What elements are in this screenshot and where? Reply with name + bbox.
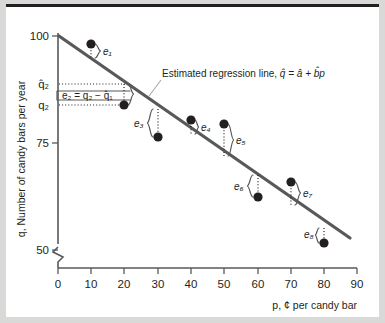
x-tick-label-20: 20 bbox=[118, 278, 131, 290]
regression-label-eq-rest: = â + b̂p bbox=[285, 66, 325, 79]
x-tick-label-80: 80 bbox=[318, 278, 331, 290]
residual-label-1: e₁ bbox=[103, 46, 112, 57]
residual-label-5: e₅ bbox=[236, 135, 246, 146]
residual-bracket-3 bbox=[147, 109, 153, 137]
data-point-2 bbox=[119, 100, 128, 109]
y-label-q-2: q₂ bbox=[38, 99, 49, 111]
regression-line-label: Estimated regression line, q̂ = â + b̂p bbox=[162, 66, 325, 79]
residual-bracket-8 bbox=[315, 228, 319, 243]
data-point-3 bbox=[153, 132, 162, 141]
scatter-plot-svg: q, Number of candy bars per year 100 75 … bbox=[6, 7, 379, 320]
residual-bracket-5 bbox=[228, 124, 234, 156]
residual-label-6: e₆ bbox=[234, 181, 244, 192]
x-axis-title: p, ¢ per candy bar bbox=[272, 299, 357, 311]
x-tick-label-0: 0 bbox=[55, 278, 61, 290]
residual-label-4: e₄ bbox=[201, 122, 211, 133]
regression-label-leader bbox=[149, 80, 161, 96]
x-tick-label-90: 90 bbox=[351, 278, 364, 290]
figure-panel: q, Number of candy bars per year 100 75 … bbox=[6, 4, 379, 317]
data-point-5 bbox=[219, 119, 228, 128]
data-point-8 bbox=[319, 238, 328, 247]
x-tick-label-30: 30 bbox=[152, 278, 165, 290]
x-tick-label-70: 70 bbox=[285, 278, 298, 290]
x-tick-label-40: 40 bbox=[185, 278, 198, 290]
y-tick-label-50: 50 bbox=[36, 244, 49, 256]
x-tick-label-50: 50 bbox=[218, 278, 231, 290]
x-tick-label-60: 60 bbox=[252, 278, 265, 290]
residual-bracket-6 bbox=[247, 175, 253, 197]
residual-label-3: e₃ bbox=[134, 118, 144, 129]
data-point-6 bbox=[253, 192, 262, 201]
y-tick-label-100: 100 bbox=[30, 30, 49, 42]
y-label-q-hat-2: q̂₂ bbox=[38, 78, 49, 90]
y-axis-title: q, Number of candy bars per year bbox=[15, 80, 27, 237]
regression-line bbox=[59, 36, 350, 238]
y-tick-label-75: 75 bbox=[36, 137, 49, 149]
residual-label-8: e₈ bbox=[304, 229, 314, 240]
residual-definition-label: e₂ = q₂ − q̂₁ bbox=[62, 90, 113, 101]
x-tick-label-10: 10 bbox=[85, 278, 98, 290]
chart-stage: q, Number of candy bars per year 100 75 … bbox=[6, 7, 379, 320]
data-point-1 bbox=[86, 39, 95, 48]
residual-label-7: e₇ bbox=[303, 188, 313, 199]
regression-label-text: Estimated regression line, bbox=[162, 68, 280, 79]
residual-bracket-1 bbox=[95, 44, 101, 58]
data-point-7 bbox=[286, 177, 295, 186]
data-point-4 bbox=[186, 115, 195, 124]
